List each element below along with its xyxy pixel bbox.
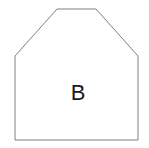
shape-label-b: B bbox=[71, 80, 86, 105]
shape-diagram-svg: B bbox=[0, 0, 149, 148]
pentagon-beveled-top-shape bbox=[15, 9, 138, 140]
shape-figure-canvas: B bbox=[0, 0, 149, 148]
